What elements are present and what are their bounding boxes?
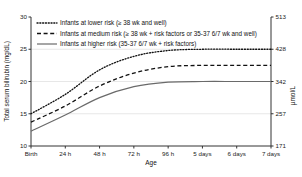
y-ticklabel-right-257: 257 <box>276 110 287 117</box>
x-ticklabel-1: 24 h <box>59 150 72 157</box>
y-ticklabel-right-171: 171 <box>276 142 287 149</box>
y-ticklabel-left-25: 25 <box>20 45 27 52</box>
y-ticklabel-left-15: 15 <box>20 110 27 117</box>
y-ticklabel-left-20: 20 <box>20 78 27 85</box>
y-ticklabel-left-10: 10 <box>20 142 27 149</box>
x-ticklabel-7: 7 days <box>262 150 280 157</box>
bilirubin-phototherapy-chart: 1015202530171257342428513Birth24 h48 h72… <box>0 0 302 177</box>
x-ticklabel-5: 5 days <box>193 150 211 157</box>
chart-canvas: 1015202530171257342428513Birth24 h48 h72… <box>0 0 302 177</box>
x-ticklabel-0: Birth <box>25 150 38 157</box>
legend-label-2: Infants at higher risk (35-37 6/7 wk + r… <box>60 40 196 48</box>
x-axis-title: Age <box>145 159 157 167</box>
series-line-2 <box>31 81 271 131</box>
y-axis-title-left: Total serum bilirubin (mg/dL) <box>3 41 11 122</box>
y-ticklabel-right-342: 342 <box>276 78 287 85</box>
x-ticklabel-2: 48 h <box>94 150 107 157</box>
y-ticklabel-left-30: 30 <box>20 13 27 20</box>
x-ticklabel-6: 6 days <box>228 150 246 157</box>
y-ticklabel-right-513: 513 <box>276 13 287 20</box>
x-ticklabel-3: 72 h <box>128 150 141 157</box>
y-axis-title-right: µmol/L <box>289 85 297 105</box>
y-ticklabel-right-428: 428 <box>276 45 287 52</box>
legend-label-0: Infants at lower risk (≥ 38 wk and well) <box>60 19 167 27</box>
x-ticklabel-4: 96 h <box>162 150 175 157</box>
legend-label-1: Infants at medium risk (≥ 38 wk + risk f… <box>60 30 257 38</box>
